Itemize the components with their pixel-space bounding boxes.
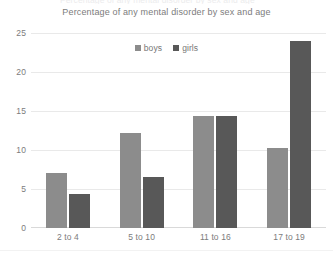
bar-girls bbox=[69, 194, 90, 228]
bottom-divider bbox=[0, 250, 333, 251]
cropped-title-sliver: Percentage of any mental disorder by sex… bbox=[60, 0, 300, 4]
y-axis-tick-label: 25 bbox=[2, 28, 26, 38]
bar-girls bbox=[216, 116, 237, 228]
bar-group bbox=[179, 33, 253, 228]
bar-boys bbox=[46, 173, 67, 228]
y-axis-tick-label: 10 bbox=[2, 145, 26, 155]
chart-container: Percentage of any mental disorder by sex… bbox=[0, 0, 333, 258]
bar-boys bbox=[193, 116, 214, 228]
bar-group bbox=[105, 33, 179, 228]
bar-boys bbox=[120, 133, 141, 228]
y-axis-tick-label: 20 bbox=[2, 67, 26, 77]
bar-boys bbox=[267, 148, 288, 228]
bar-girls bbox=[143, 177, 164, 228]
x-axis-labels: 2 to 45 to 1011 to 1617 to 19 bbox=[31, 232, 326, 242]
bar-group bbox=[252, 33, 326, 228]
bar-group bbox=[31, 33, 105, 228]
x-axis-tick-label: 11 to 16 bbox=[179, 232, 253, 242]
y-axis-tick-label: 5 bbox=[2, 184, 26, 194]
chart-title: Percentage of any mental disorder by sex… bbox=[0, 7, 333, 17]
x-axis-tick-label: 2 to 4 bbox=[31, 232, 105, 242]
x-axis-tick-label: 17 to 19 bbox=[252, 232, 326, 242]
x-axis-tick-label: 5 to 10 bbox=[105, 232, 179, 242]
bar-girls bbox=[290, 41, 311, 228]
bar-groups bbox=[31, 33, 326, 228]
y-axis-tick-label: 15 bbox=[2, 106, 26, 116]
y-axis-tick-label: 0 bbox=[2, 223, 26, 233]
plot-area bbox=[31, 33, 326, 228]
